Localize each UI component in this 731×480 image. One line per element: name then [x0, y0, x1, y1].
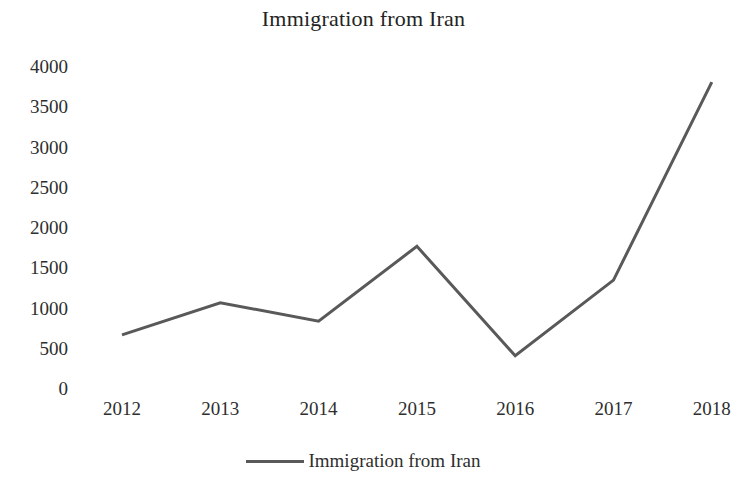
chart-legend: Immigration from Iran	[0, 450, 727, 472]
data-series-line	[122, 82, 712, 356]
legend-line-swatch-icon	[246, 460, 304, 463]
legend-label: Immigration from Iran	[308, 450, 480, 472]
